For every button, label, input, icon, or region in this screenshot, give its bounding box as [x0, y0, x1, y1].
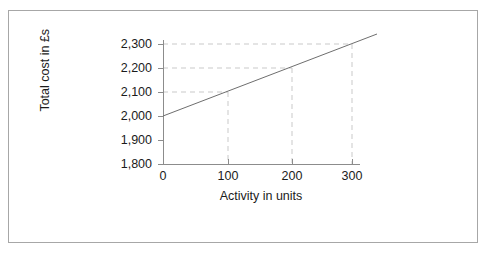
- x-tick-label-0: 0: [140, 170, 186, 183]
- chart-figure: 2,300 2,200 2,100 2,000 1,900 1,800 0 10…: [0, 0, 489, 257]
- y-tick-label-1900: 1,900: [106, 134, 152, 147]
- x-tick-label-100: 100: [205, 170, 251, 183]
- x-tick-label-300: 300: [329, 170, 375, 183]
- y-tick-label-2300: 2,300: [106, 38, 152, 51]
- y-tick-label-2000: 2,000: [106, 110, 152, 123]
- chart-plot-area: [0, 0, 489, 257]
- y-tick-label-1800: 1,800: [106, 158, 152, 171]
- y-tick-label-2200: 2,200: [106, 62, 152, 75]
- total-cost-line: [163, 34, 377, 116]
- x-tick-label-200: 200: [269, 170, 315, 183]
- y-tick-label-2100: 2,100: [106, 86, 152, 99]
- x-axis-title: Activity in units: [163, 190, 359, 203]
- y-axis-title: Total cost in £s: [39, 0, 52, 150]
